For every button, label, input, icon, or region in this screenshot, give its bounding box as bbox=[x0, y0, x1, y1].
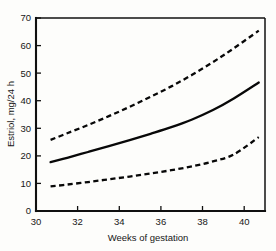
x-tick-label-38: 38 bbox=[197, 216, 208, 227]
chart-plot-svg: 0 10 20 30 40 50 60 70 30 32 34 36 38 40 bbox=[0, 0, 276, 251]
y-axis-tick-labels: 0 10 20 30 40 50 60 70 bbox=[20, 12, 31, 216]
y-tick-label-10: 10 bbox=[20, 178, 31, 189]
x-tick-label-40: 40 bbox=[239, 216, 250, 227]
y-tick-label-40: 40 bbox=[20, 95, 31, 106]
y-tick-label-30: 30 bbox=[20, 123, 31, 134]
y-tick-label-20: 20 bbox=[20, 150, 31, 161]
y-tick-label-70: 70 bbox=[20, 12, 31, 23]
chart-series-group bbox=[51, 31, 259, 187]
x-axis-tick-labels: 30 32 34 36 38 40 bbox=[31, 216, 250, 227]
x-axis-title: Weeks of gestation bbox=[108, 232, 189, 243]
y-tick-label-50: 50 bbox=[20, 68, 31, 79]
series-line-0 bbox=[51, 31, 259, 140]
series-line-2 bbox=[51, 137, 259, 186]
y-axis-title: Estriol, mg/24 h bbox=[5, 81, 16, 147]
x-tick-label-36: 36 bbox=[156, 216, 167, 227]
x-tick-label-34: 34 bbox=[114, 216, 125, 227]
x-tick-label-32: 32 bbox=[72, 216, 83, 227]
plot-frame bbox=[36, 18, 265, 211]
y-tick-label-60: 60 bbox=[20, 40, 31, 51]
chart-figure: 0 10 20 30 40 50 60 70 30 32 34 36 38 40 bbox=[0, 0, 276, 251]
x-tick-label-30: 30 bbox=[31, 216, 42, 227]
